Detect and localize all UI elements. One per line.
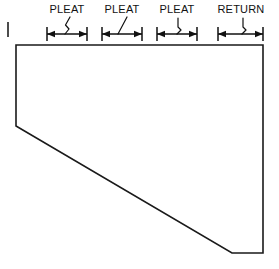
dimension-label: RETURN (217, 3, 264, 15)
drawing-svg: PLEAT PLEAT PLEAT (0, 0, 279, 269)
arrowhead-left (102, 31, 110, 37)
dimension-group-return: RETURN (217, 3, 264, 41)
leader-line (118, 17, 127, 34)
dimension-group-pleat-2: PLEAT (102, 3, 142, 41)
valance-panel-outline (16, 45, 263, 253)
arrowhead-left (47, 31, 55, 37)
arrowhead-right (79, 31, 87, 37)
arrowhead-right (189, 31, 197, 37)
dimension-group-pleat-1: PLEAT (47, 3, 87, 41)
dimension-group-pleat-3: PLEAT (157, 3, 197, 41)
dimension-label: PLEAT (159, 3, 194, 15)
technical-drawing-canvas: PLEAT PLEAT PLEAT (0, 0, 279, 269)
leader-line (242, 18, 246, 34)
arrowhead-left (157, 31, 165, 37)
leader-line (177, 18, 181, 34)
dimension-label: PLEAT (104, 3, 139, 15)
arrowhead-left (218, 31, 226, 37)
arrowhead-right (134, 31, 142, 37)
leader-line (65, 17, 70, 34)
dimension-label: PLEAT (49, 3, 84, 15)
arrowhead-right (255, 31, 263, 37)
